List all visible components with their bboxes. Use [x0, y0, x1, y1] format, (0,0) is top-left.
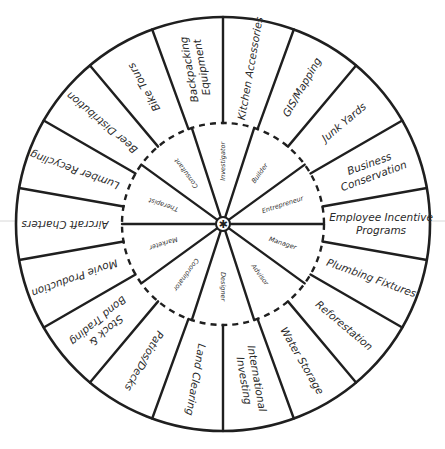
outer-segment-label-line: Aircraft Charters	[21, 219, 110, 231]
outer-segment-label-line: Programs	[356, 224, 407, 236]
inner-segment-label: Designer	[219, 272, 227, 302]
inner-segment-label: Investigator	[219, 141, 227, 181]
career-wheel-diagram: Kitchen AccessoriesGIS/MappingJunk Yards…	[0, 0, 445, 449]
asterisk-icon: ✱	[218, 218, 227, 231]
outer-segment-label: Aircraft Charters	[21, 219, 110, 231]
outer-segment-label-line: Employee Incentive	[329, 211, 433, 223]
